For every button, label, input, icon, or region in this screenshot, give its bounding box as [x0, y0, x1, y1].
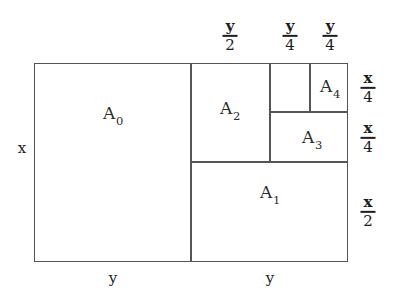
fraction-numerator: x — [362, 195, 375, 210]
region-a1-rect — [191, 162, 348, 262]
region-label-a0: A0 — [103, 103, 123, 126]
left-label-x: x — [18, 139, 26, 157]
fraction-denominator: 4 — [361, 90, 375, 105]
region-label-a3: A3 — [302, 127, 322, 150]
region-label-a2: A2 — [220, 98, 240, 121]
fraction-denominator: 4 — [323, 38, 337, 53]
region-label-a2-subscript: 2 — [233, 110, 241, 124]
bottom-label-y-right: y — [266, 269, 274, 287]
region-label-a3-text: A — [302, 127, 314, 147]
bottom-label-y-left: y — [109, 269, 117, 287]
region-remainder-rect — [270, 63, 310, 112]
fraction-numerator: x — [362, 71, 375, 86]
region-label-a1: A1 — [260, 182, 280, 205]
region-label-a4-text: A — [320, 76, 332, 96]
region-label-a1-text: A — [260, 182, 272, 202]
fraction-denominator: 2 — [361, 214, 375, 229]
region-label-a1-subscript: 1 — [273, 194, 281, 208]
fraction-denominator: 4 — [283, 38, 297, 53]
region-label-a2-text: A — [220, 98, 232, 118]
region-label-a4: A4 — [320, 76, 340, 99]
top-label-y-over-4-left: y 4 — [283, 19, 298, 53]
right-label-x-over-4-upper: x 4 — [361, 71, 376, 105]
fraction-denominator: 2 — [223, 38, 237, 53]
region-label-a0-text: A — [103, 103, 115, 123]
top-label-y-over-2: y 2 — [223, 19, 238, 53]
right-label-x-over-4-lower: x 4 — [361, 121, 376, 155]
fraction-numerator: x — [362, 121, 375, 136]
fraction-denominator: 4 — [361, 140, 375, 155]
region-label-a0-subscript: 0 — [116, 115, 124, 129]
right-label-x-over-2: x 2 — [361, 195, 376, 229]
region-a0-rect — [34, 63, 191, 262]
fraction-numerator: y — [284, 19, 297, 34]
figure-canvas: A0 A1 A2 A3 A4 y 2 y 4 y 4 x 4 x 4 x — [0, 0, 398, 304]
fraction-numerator: y — [224, 19, 237, 34]
fraction-numerator: y — [324, 19, 337, 34]
region-label-a4-subscript: 4 — [333, 88, 341, 102]
region-label-a3-subscript: 3 — [315, 139, 323, 153]
top-label-y-over-4-right: y 4 — [323, 19, 338, 53]
